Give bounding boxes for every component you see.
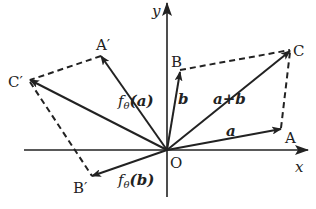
- vector-f-a-plus-b: [30, 80, 167, 150]
- origin-label: O: [170, 154, 182, 172]
- point-b-prime-label: B′: [73, 179, 88, 197]
- vector-a: [167, 129, 281, 150]
- vector-a-label: a: [226, 122, 236, 140]
- vector-b: [167, 72, 180, 150]
- point-c-label: C: [293, 42, 304, 60]
- y-axis-label: y: [151, 2, 161, 20]
- dashed-edge-bc: [180, 50, 290, 70]
- point-c-prime-label: C′: [8, 73, 23, 91]
- vector-f-b-label: fθ(b): [117, 171, 154, 190]
- vector-f-a-label: fθ(a): [117, 92, 154, 111]
- x-axis-label: x: [295, 158, 304, 176]
- dashed-edge-ac: [281, 52, 290, 128]
- vector-diagram: y x O A B C A′ C′ B′ a b a+b fθ(a) fθ(b): [0, 0, 316, 209]
- dashed-edge-a-prime-c-prime: [30, 56, 101, 80]
- vector-b-label: b: [178, 90, 189, 108]
- point-b-label: B: [171, 53, 182, 71]
- point-a-label: A: [284, 129, 296, 147]
- point-a-prime-label: A′: [95, 36, 111, 54]
- vector-a-plus-b-label: a+b: [213, 90, 246, 108]
